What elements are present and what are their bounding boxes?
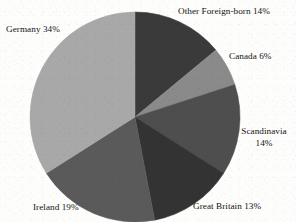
pie-chart: Other Foreign-born 14% Canada 6% Scandin… (0, 0, 296, 222)
slice-label-ireland: Ireland 19% (33, 202, 79, 214)
slice-label-scandinavia-name: Scandinavia (234, 126, 294, 138)
slice-label-canada: Canada 6% (229, 51, 272, 63)
slice-label-great-britain: Great Britain 13% (193, 201, 261, 213)
slice-label-scandinavia: Scandinavia 14% (234, 126, 294, 149)
slice-label-germany: Germany 34% (6, 24, 60, 36)
slice-label-scandinavia-value: 14% (234, 138, 294, 150)
slice-label-other-foreign-born: Other Foreign-born 14% (178, 6, 270, 18)
